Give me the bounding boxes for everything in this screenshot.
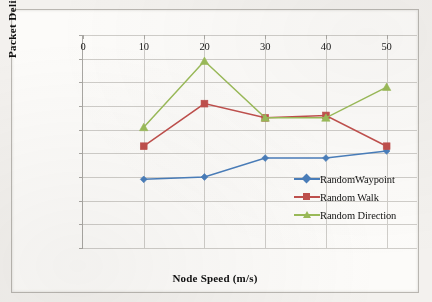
data-point-square	[140, 143, 147, 150]
data-point-triangle	[382, 83, 390, 90]
data-point-triangle	[200, 57, 208, 64]
legend-item: Random Walk	[294, 188, 412, 206]
legend-label: Random Walk	[320, 192, 379, 203]
data-point-square	[383, 143, 390, 150]
gridline-horizontal	[83, 248, 417, 249]
legend-label: Random Direction	[320, 210, 396, 221]
legend-marker-diamond	[302, 174, 312, 184]
legend-item: Random Direction	[294, 206, 412, 224]
legend-label: RandomWaypoint	[320, 174, 395, 185]
x-axis-label: Node Speed (m/s)	[12, 272, 418, 284]
data-point-diamond	[201, 174, 208, 181]
legend-marker-triangle	[303, 211, 311, 218]
legend-key	[294, 170, 320, 188]
legend-item: RandomWaypoint	[294, 170, 412, 188]
screenshot-canvas: Packet Delivery Ratio 0.830.840.850.860.…	[0, 0, 432, 302]
data-point-diamond	[262, 155, 269, 162]
data-point-diamond	[140, 176, 147, 183]
legend-key	[294, 188, 320, 206]
y-axis-tick-mark	[79, 248, 83, 249]
data-point-diamond	[323, 155, 330, 162]
y-axis-label: Packet Delivery Ratio	[6, 0, 18, 58]
legend-key	[294, 206, 320, 224]
plot-area: 0.830.840.850.860.870.880.890.900.910.92…	[82, 35, 417, 249]
series-line	[144, 104, 387, 147]
chart-legend: RandomWaypointRandom WalkRandom Directio…	[294, 170, 412, 224]
legend-marker-square	[303, 193, 310, 200]
data-point-square	[201, 100, 208, 107]
scanned-figure-frame: Packet Delivery Ratio 0.830.840.850.860.…	[11, 9, 419, 293]
